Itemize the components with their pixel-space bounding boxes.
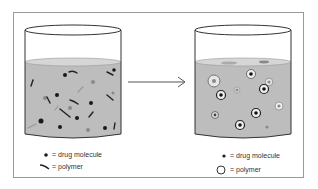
left-legend-drug: = drug molecule [52, 151, 102, 158]
legend-label: = polymer [52, 163, 83, 170]
arrow-right-icon [128, 77, 185, 87]
drug-molecule-icon [44, 153, 48, 157]
legend-label: = drug molecule [52, 151, 102, 158]
right-legend-polymer: = polymer [230, 166, 261, 173]
legend-label: = drug molecule [230, 152, 280, 159]
legend-label: = polymer [230, 166, 261, 173]
polymer-icon [40, 165, 49, 169]
left-legend-polymer: = polymer [52, 163, 83, 170]
left-beaker [25, 25, 121, 138]
drug-molecule-icon [222, 154, 225, 157]
right-legend-drug: = drug molecule [230, 152, 280, 159]
polymer-micelle-icon [217, 166, 225, 174]
diagram-canvas [0, 0, 318, 189]
right-beaker [195, 25, 291, 138]
